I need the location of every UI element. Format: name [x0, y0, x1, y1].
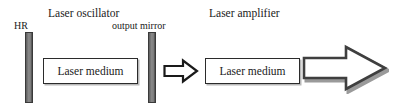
amplifier-laser-medium-box: Laser medium — [205, 58, 300, 84]
amplifier-laser-medium-label: Laser medium — [219, 65, 285, 77]
output-beam-arrow-icon — [162, 57, 200, 85]
amplified-beam-arrow-icon — [297, 42, 389, 94]
laser-amplifier-label: Laser amplifier — [209, 8, 280, 20]
laser-oscillator-label: Laser oscillator — [48, 8, 119, 20]
hr-mirror-label: HR — [14, 21, 28, 31]
output-mirror-label: output mirror — [112, 21, 166, 31]
oscillator-laser-medium-label: Laser medium — [57, 65, 123, 77]
oscillator-laser-medium-box: Laser medium — [43, 58, 138, 84]
output-mirror-bar — [148, 32, 156, 103]
hr-mirror-bar — [25, 32, 33, 103]
laser-amplifier-diagram: Laser oscillator HR output mirror Laser … — [0, 0, 400, 111]
